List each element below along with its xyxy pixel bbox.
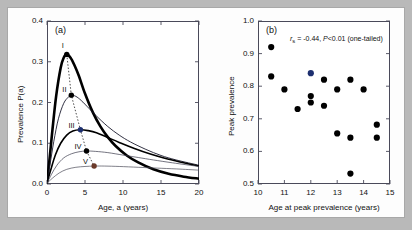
panel-a-tag: (a)	[55, 25, 66, 35]
panel-b-scatter-point-4	[308, 70, 314, 76]
panel-b-scatter-point-5	[308, 93, 314, 99]
panel-a-xtick-2: 10	[111, 188, 135, 197]
panel-b-scatter-point-13	[347, 170, 353, 176]
panel-b-xtick-0: 10	[246, 188, 270, 197]
panel-b-scatter-point-11	[347, 77, 353, 83]
panel-b-xtick-4: 14	[352, 188, 376, 197]
panel-b-scatter-point-10	[334, 130, 340, 136]
panel-a-xtick-0: 0	[35, 188, 59, 197]
panel-a-ytick-4: 0.4	[15, 16, 43, 25]
panel-a-ytick-2: 0.2	[15, 98, 43, 107]
panel-a-curve-label-iv: IV	[75, 142, 82, 151]
panel-a-ytick-0: 0.0	[15, 179, 43, 188]
panel-b-scatter-point-1	[268, 73, 274, 79]
panel-a-xtick-1: 5	[73, 188, 97, 197]
stat-p-value: <0.01 (one-tailed)	[328, 35, 383, 42]
panel-b-xtick-2: 12	[299, 188, 323, 197]
panel-b-scatter-point-12	[347, 135, 353, 141]
panel-a-xaxis-label: Age, a (years)	[47, 203, 199, 212]
panel-a-curve-label-i: I	[62, 41, 64, 50]
panel-a-xtick-3: 15	[149, 188, 173, 197]
panel-b-scatter-point-6	[308, 99, 314, 105]
panel-b-scatter-point-9	[334, 86, 340, 92]
panel-b: (b) rs = -0.44, P<0.01 (one-tailed) Age …	[214, 8, 405, 218]
panel-b-ytick-0: 0.5	[226, 179, 254, 188]
panel-a-ytick-1: 0.1	[15, 138, 43, 147]
panel-b-scatter-point-15	[374, 122, 380, 128]
panel-b-scatter-point-8	[321, 103, 327, 109]
panel-b-xtick-1: 11	[272, 188, 296, 197]
panel-b-xtick-3: 13	[325, 188, 349, 197]
panel-a-curve-label-ii: II	[62, 85, 66, 94]
panel-b-ytick-1: 0.6	[226, 146, 254, 155]
panel-a-curve-label-v: V	[83, 157, 88, 166]
panel-b-xaxis-label: Age at peak prevalence (years)	[242, 203, 405, 212]
stat-value: = -0.44,	[295, 35, 323, 42]
panel-b-ytick-3: 0.8	[226, 81, 254, 90]
panel-a-ytick-3: 0.3	[15, 57, 43, 66]
panel-b-xtick-5: 15	[378, 188, 402, 197]
panel-a: (a) Age, a (years) Prevalence P(a) 0.00.…	[8, 8, 214, 218]
panel-b-scatter-point-16	[374, 135, 380, 141]
panel-b-scatter-point-7	[321, 77, 327, 83]
panel-b-scatter-point-0	[268, 44, 274, 50]
panel-b-scatter-point-14	[361, 86, 367, 92]
panel-b-tag: (b)	[266, 25, 277, 35]
panel-b-ytick-5: 1.0	[226, 16, 254, 25]
figure-canvas: (a) Age, a (years) Prevalence P(a) 0.00.…	[7, 7, 405, 218]
panel-b-scatter-point-3	[295, 106, 301, 112]
panel-b-statistics-annotation: rs = -0.44, P<0.01 (one-tailed)	[290, 35, 383, 44]
panel-b-ytick-2: 0.7	[226, 114, 254, 123]
panel-a-yaxis-label: Prevalence P(a)	[16, 86, 25, 143]
figure-root: (a) Age, a (years) Prevalence P(a) 0.00.…	[0, 0, 412, 230]
panel-b-ytick-4: 0.9	[226, 49, 254, 58]
panel-a-curve-label-iii: III	[68, 121, 74, 130]
panel-a-xtick-4: 20	[187, 188, 211, 197]
panel-b-scatter-point-2	[281, 86, 287, 92]
